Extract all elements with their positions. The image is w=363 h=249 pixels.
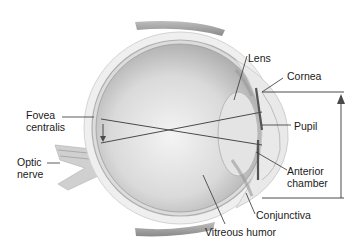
label-optic-line2: nerve <box>17 168 43 180</box>
label-cornea: Cornea <box>287 70 321 82</box>
label-anterior-line1: Anterior <box>287 165 324 177</box>
label-fovea-line1: Fovea <box>26 109 55 121</box>
label-pupil: Pupil <box>294 120 317 132</box>
eye-anatomy-diagram: Lens Cornea Fovea centralis Pupil Optic … <box>0 0 363 249</box>
label-lens: Lens <box>248 52 271 64</box>
label-fovea-line2: centralis <box>26 121 65 133</box>
label-conjunctiva: Conjunctiva <box>256 209 311 221</box>
label-vitreous-humor: Vitreous humor <box>205 226 276 238</box>
label-optic-line1: Optic <box>17 156 42 168</box>
label-anterior-line2: chamber <box>287 177 328 189</box>
lens-shape <box>218 92 258 176</box>
